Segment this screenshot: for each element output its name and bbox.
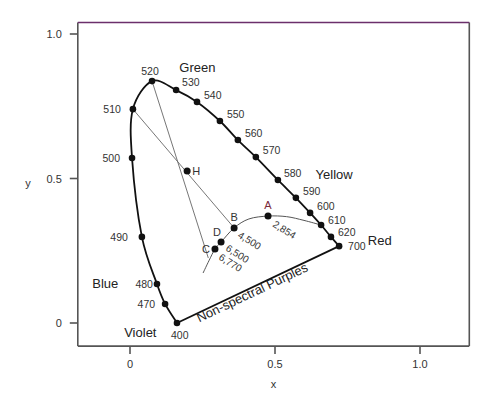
wavelength-label-580: 580: [284, 167, 302, 179]
color-temperature-label-a: 2,854: [271, 218, 298, 241]
wavelength-label-590: 590: [303, 185, 321, 197]
y-tick-label: 1.0: [47, 28, 62, 40]
wavelength-dot-600: [307, 210, 314, 217]
chromaticity-diagram: 00.51.000.51.0xy Non-spectral Purples400…: [0, 0, 489, 410]
x-axis-label: x: [271, 378, 277, 390]
point-label-c: C: [202, 243, 210, 255]
y-axis-label: y: [25, 177, 31, 189]
wavelength-dot-500: [129, 155, 136, 162]
wavelength-dot-550: [217, 118, 224, 125]
y-tick-label: 0: [56, 317, 62, 329]
wavelength-label-540: 540: [204, 89, 222, 101]
non-spectral-purples-label: Non-spectral Purples: [194, 260, 311, 326]
wavelength-label-520: 520: [141, 65, 159, 77]
wavelength-label-500: 500: [102, 152, 120, 164]
wavelength-dot-610: [318, 222, 325, 229]
wavelength-label-550: 550: [227, 108, 245, 120]
wavelength-label-620: 620: [338, 226, 356, 238]
wavelength-label-600: 600: [317, 200, 335, 212]
wavelength-dot-540: [194, 99, 201, 106]
wavelength-dot-590: [293, 195, 300, 202]
wavelength-label-400: 400: [171, 329, 189, 341]
x-tick-label: 1.0: [412, 358, 427, 370]
wavelength-dot-700: [336, 243, 343, 250]
point-label-a: A: [264, 199, 272, 211]
wavelength-label-510: 510: [103, 103, 121, 115]
wavelength-dot-510: [130, 106, 137, 113]
wavelength-dot-470: [162, 301, 169, 308]
region-label-violet: Violet: [124, 325, 157, 340]
wavelength-dot-530: [173, 87, 180, 94]
wavelength-label-530: 530: [182, 76, 200, 88]
axes: 00.51.000.51.0xy: [25, 22, 469, 390]
labels: Non-spectral Purples40047048049050051052…: [92, 60, 391, 341]
point-label-b: B: [230, 211, 237, 223]
y-tick-label: 0.5: [47, 173, 62, 185]
point-label-d: D: [213, 226, 221, 238]
point-label-h: H: [192, 165, 200, 177]
wavelength-label-560: 560: [245, 127, 263, 139]
point-b: [231, 224, 238, 231]
wavelength-label-480: 480: [135, 278, 153, 290]
region-label-red: Red: [368, 233, 392, 248]
wavelength-dot-520: [149, 78, 156, 85]
wavelength-dot-580: [275, 177, 282, 184]
x-tick-label: 0: [127, 358, 133, 370]
wavelength-label-570: 570: [263, 144, 281, 156]
construction-line: [133, 109, 234, 228]
point-c: [211, 246, 218, 253]
wavelength-label-470: 470: [138, 298, 156, 310]
region-label-blue: Blue: [92, 276, 118, 291]
region-label-yellow: Yellow: [316, 167, 354, 182]
point-a: [265, 213, 272, 220]
wavelength-dot-560: [235, 137, 242, 144]
wavelength-dot-400: [174, 320, 181, 327]
point-d: [218, 239, 225, 246]
wavelength-dot-570: [253, 154, 260, 161]
point-h: [184, 167, 191, 174]
wavelength-label-490: 490: [110, 231, 128, 243]
wavelength-dot-490: [139, 234, 146, 241]
wavelength-dot-620: [328, 234, 335, 241]
wavelength-label-610: 610: [328, 214, 346, 226]
x-tick-label: 0.5: [267, 358, 282, 370]
wavelength-label-700: 700: [348, 240, 366, 252]
region-label-green: Green: [179, 60, 215, 75]
wavelength-dot-480: [154, 281, 161, 288]
